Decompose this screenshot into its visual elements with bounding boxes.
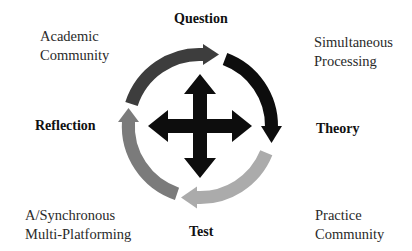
arc-question-to-theory <box>225 59 272 127</box>
note-line: Processing <box>314 52 393 71</box>
note-line: A/Synchronous <box>25 206 131 225</box>
stage-label-test: Test <box>189 222 213 241</box>
stage-label-theory: Theory <box>316 119 360 138</box>
note-line: Practice <box>315 206 384 225</box>
arrowhead-reflection-icon <box>118 108 139 122</box>
arrowhead-test-icon <box>181 187 197 209</box>
note-line: Community <box>315 225 384 244</box>
note-line: Community <box>40 46 109 65</box>
note-practice-community: Practice Community <box>315 206 384 244</box>
arrowhead-question-icon <box>203 44 219 65</box>
note-asynchronous-multi-platforming: A/Synchronous Multi-Platforming <box>25 206 131 244</box>
note-simultaneous-processing: Simultaneous Processing <box>314 33 393 71</box>
note-line: Academic <box>40 27 109 46</box>
stage-label-question: Question <box>174 9 228 28</box>
arrowhead-theory-icon <box>261 126 282 143</box>
note-line: Multi-Platforming <box>25 225 131 244</box>
stage-label-reflection: Reflection <box>35 116 96 135</box>
four-way-arrow-icon <box>148 74 252 178</box>
note-academic-community: Academic Community <box>40 27 109 65</box>
note-line: Simultaneous <box>314 33 393 52</box>
